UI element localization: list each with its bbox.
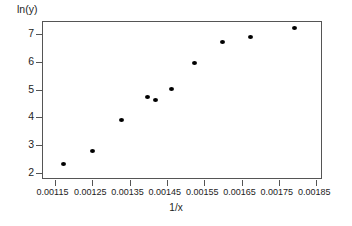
y-axis-label: ln(y): [17, 3, 37, 15]
x-tick-mark: [279, 180, 280, 186]
x-tick-label: 0.00125: [74, 188, 107, 197]
y-tick-label: 3: [18, 139, 34, 150]
plot-area: [42, 21, 322, 179]
x-tick-mark: [55, 180, 56, 186]
x-tick-label: 0.00165: [223, 188, 256, 197]
x-tick-mark: [242, 180, 243, 186]
data-point: [248, 35, 253, 39]
x-tick-label: 0.00145: [149, 188, 182, 197]
y-tick-mark: [36, 145, 42, 146]
y-tick-label: 5: [18, 84, 34, 95]
y-tick-label: 4: [18, 111, 34, 122]
x-tick-label: 0.00115: [37, 188, 69, 197]
x-tick-mark: [316, 180, 317, 186]
data-point: [192, 61, 197, 65]
x-tick-mark: [204, 180, 205, 186]
y-tick-mark: [36, 173, 42, 174]
x-tick-label: 0.00185: [298, 188, 331, 197]
x-axis-label: 1/x: [0, 202, 352, 213]
y-tick-mark: [36, 117, 42, 118]
y-tick-label: 2: [18, 167, 34, 178]
y-tick-label: 6: [18, 56, 34, 67]
scatter-plot: ln(y) 765432 0.001150.001250.001350.0014…: [0, 0, 352, 226]
x-tick-label: 0.00175: [261, 188, 294, 197]
y-tick-label: 7: [18, 28, 34, 39]
x-tick-mark: [130, 180, 131, 186]
y-tick-mark: [36, 34, 42, 35]
x-tick-mark: [92, 180, 93, 186]
data-point: [119, 118, 124, 122]
data-point: [220, 40, 225, 44]
data-point: [145, 95, 150, 99]
x-tick-label: 0.00155: [186, 188, 219, 197]
x-tick-label: 0.00135: [111, 188, 144, 197]
data-point: [153, 98, 158, 102]
data-point: [292, 26, 297, 30]
x-tick-mark: [167, 180, 168, 186]
y-tick-mark: [36, 90, 42, 91]
y-tick-mark: [36, 62, 42, 63]
